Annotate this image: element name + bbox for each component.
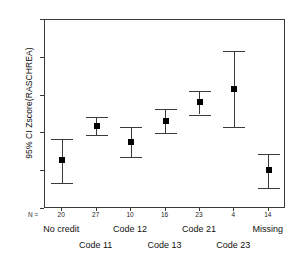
ci-upper-cap: [51, 139, 73, 140]
n-value: 27: [92, 211, 99, 218]
mean-marker: [163, 118, 169, 124]
category-label: Code 13: [147, 240, 181, 250]
mean-marker: [266, 167, 272, 173]
n-value: 16: [161, 211, 168, 218]
ci-lower-cap: [258, 188, 280, 189]
mean-marker: [59, 157, 65, 163]
ci-upper-cap: [189, 91, 211, 92]
ci-lower-cap: [51, 183, 73, 184]
n-value: 20: [58, 211, 65, 218]
plot-area: [44, 19, 285, 208]
category-label: Code 12: [113, 224, 147, 234]
category-label: No credit: [43, 224, 79, 234]
ci-upper-cap: [86, 117, 108, 118]
ci-upper-cap: [258, 154, 280, 155]
y-axis-title: 95% CI Zscore(RASCHREA): [24, 3, 38, 203]
ci-lower-cap: [120, 157, 142, 158]
category-label: Missing: [253, 224, 284, 234]
mean-marker: [197, 99, 203, 105]
n-row-label: N =: [28, 211, 38, 218]
error-bar-chart: 95% CI Zscore(RASCHREA) 3210-1-2 N = 202…: [0, 0, 301, 255]
category-label: Code 11: [79, 240, 112, 250]
ci-lower-cap: [86, 135, 108, 136]
ci-upper-cap: [155, 109, 177, 110]
mean-marker: [231, 86, 237, 92]
category-label: Code 21: [182, 224, 216, 234]
category-label: Code 23: [216, 240, 250, 250]
ci-upper-cap: [120, 127, 142, 128]
ci-lower-cap: [223, 127, 245, 128]
n-value: 14: [264, 211, 271, 218]
ci-lower-cap: [155, 133, 177, 134]
n-value: 4: [232, 211, 236, 218]
mean-marker: [94, 123, 100, 129]
ci-lower-cap: [189, 115, 211, 116]
mean-marker: [128, 139, 134, 145]
n-value: 10: [126, 211, 133, 218]
y-tick-mark: [40, 208, 44, 209]
ci-upper-cap: [223, 51, 245, 52]
n-value: 23: [195, 211, 202, 218]
